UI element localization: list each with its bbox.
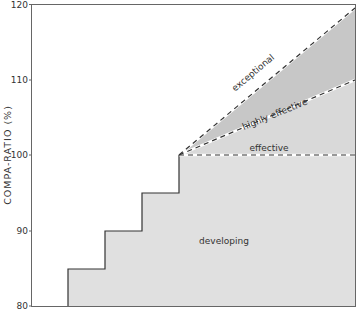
y-tick-80: 80	[17, 301, 29, 311]
y-tick-120: 120	[11, 0, 28, 10]
y-tick-90: 90	[17, 226, 29, 236]
y-axis: 120 110 100 90 80	[11, 0, 32, 311]
y-tick-110: 110	[11, 75, 28, 85]
y-tick-100: 100	[11, 150, 28, 160]
developing-label: developing	[199, 236, 249, 246]
compa-ratio-chart: 120 110 100 90 80 COMPA-RATIO (%) develo…	[0, 0, 359, 315]
effective-label: effective	[249, 143, 289, 153]
y-axis-label: COMPA-RATIO (%)	[2, 105, 13, 205]
